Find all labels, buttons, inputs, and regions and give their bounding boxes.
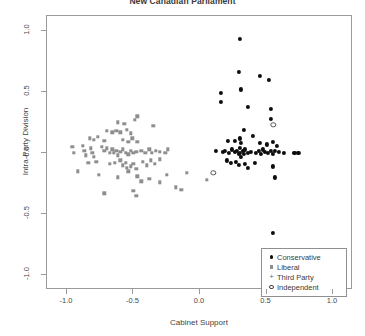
data-point-liberal — [92, 138, 95, 141]
data-point-liberal — [89, 146, 92, 149]
data-point-conservative — [268, 117, 272, 121]
data-point-conservative — [238, 136, 242, 140]
data-point-liberal — [133, 118, 136, 121]
data-point-liberal — [71, 145, 74, 148]
data-point-conservative — [264, 142, 268, 146]
data-point-conservative — [268, 107, 272, 111]
x-axis-title: Cabinet Support — [46, 318, 352, 327]
data-point-liberal — [150, 151, 153, 154]
data-point-liberal — [87, 161, 90, 164]
data-point-liberal — [105, 129, 108, 132]
data-point-liberal — [124, 161, 127, 164]
legend-item-conservative[interactable]: Conservative — [266, 252, 342, 262]
data-point-liberal — [152, 124, 155, 127]
data-point-liberal — [153, 162, 156, 165]
data-point-conservative — [239, 87, 243, 91]
data-point-liberal — [158, 150, 161, 153]
data-point-liberal — [76, 170, 79, 173]
data-point-liberal — [114, 149, 117, 152]
data-point-liberal — [122, 122, 125, 125]
data-point-conservative — [296, 151, 300, 155]
data-point-conservative — [248, 150, 252, 154]
data-point-conservative — [258, 141, 262, 145]
data-point-conservative — [232, 139, 236, 143]
data-point-conservative — [242, 128, 246, 132]
legend-marker-open-circle-icon — [266, 285, 277, 290]
y-tick-mark — [41, 91, 46, 92]
data-point-liberal — [81, 144, 84, 147]
data-point-liberal — [165, 173, 168, 176]
data-point-conservative — [214, 148, 218, 152]
x-tick-mark — [199, 289, 200, 294]
data-point-liberal — [149, 159, 152, 162]
x-tick-mark — [332, 289, 333, 294]
data-point-liberal — [92, 155, 95, 158]
data-point-liberal — [158, 181, 161, 184]
data-point-liberal — [148, 177, 151, 180]
x-tick-label: 1.0 — [327, 296, 337, 305]
x-tick-label: -1.0 — [59, 296, 72, 305]
data-point-liberal — [140, 179, 143, 182]
data-point-conservative — [276, 150, 280, 154]
legend-label: Liberal — [277, 263, 300, 272]
data-point-liberal — [113, 161, 116, 164]
legend-label: Third Party — [277, 273, 314, 282]
data-point-liberal — [72, 151, 75, 154]
data-point-independent — [211, 170, 216, 175]
data-point-conservative — [252, 161, 256, 165]
data-point-liberal — [154, 149, 157, 152]
data-point-liberal — [116, 176, 119, 179]
data-point-liberal — [118, 131, 121, 134]
data-point-liberal — [136, 115, 139, 118]
x-tick-label: 0.5 — [260, 296, 270, 305]
data-point-liberal — [134, 150, 137, 153]
data-point-liberal — [132, 189, 135, 192]
data-point-liberal — [140, 149, 143, 152]
data-point-conservative — [226, 139, 230, 143]
data-point-conservative — [258, 74, 262, 78]
data-point-liberal — [145, 164, 148, 167]
data-point-liberal — [126, 170, 129, 173]
data-point-liberal — [97, 173, 100, 176]
data-point-liberal — [105, 146, 108, 149]
legend-marker-plus-icon: + — [266, 273, 277, 281]
data-point-liberal — [166, 148, 169, 151]
y-tick-label: -0.5 — [22, 202, 31, 224]
legend-item-third-party[interactable]: +Third Party — [266, 272, 342, 282]
data-point-liberal — [129, 132, 132, 135]
legend-item-independent[interactable]: Independent — [266, 282, 342, 292]
data-point-conservative — [271, 230, 275, 234]
legend-label: Conservative — [277, 253, 321, 262]
y-tick-label: 0.5 — [22, 79, 31, 101]
data-point-liberal — [136, 140, 139, 143]
data-point-liberal — [96, 135, 99, 138]
data-point-liberal — [132, 162, 135, 165]
data-point-liberal — [174, 186, 177, 189]
data-point-conservative — [236, 163, 240, 167]
y-tick-label: -1.0 — [22, 263, 31, 285]
legend-label: Independent — [277, 283, 319, 292]
data-point-conservative — [246, 104, 250, 108]
legend-item-liberal[interactable]: Liberal — [266, 262, 342, 272]
data-point-conservative — [227, 151, 231, 155]
x-tick-mark — [66, 289, 67, 294]
legend-marker-filled-circle-icon — [266, 255, 277, 259]
chart-title: New Canadian Parliament — [0, 0, 365, 6]
data-point-liberal — [144, 151, 147, 154]
data-point-liberal — [164, 151, 167, 154]
data-point-liberal — [108, 151, 111, 154]
data-point-liberal — [116, 154, 119, 157]
data-point-liberal — [158, 157, 161, 160]
data-point-liberal — [126, 140, 129, 143]
data-point-liberal — [134, 167, 137, 170]
data-point-conservative — [246, 166, 250, 170]
data-point-liberal — [83, 149, 86, 152]
data-point-liberal — [110, 131, 113, 134]
scatter-plot-figure: New Canadian Parliament Intra-Party Divi… — [0, 0, 365, 336]
data-point-liberal — [125, 128, 128, 131]
x-tick-mark — [132, 289, 133, 294]
data-point-liberal — [95, 160, 98, 163]
data-point-liberal — [141, 160, 144, 163]
data-point-liberal — [136, 175, 139, 178]
data-point-conservative — [219, 91, 223, 95]
